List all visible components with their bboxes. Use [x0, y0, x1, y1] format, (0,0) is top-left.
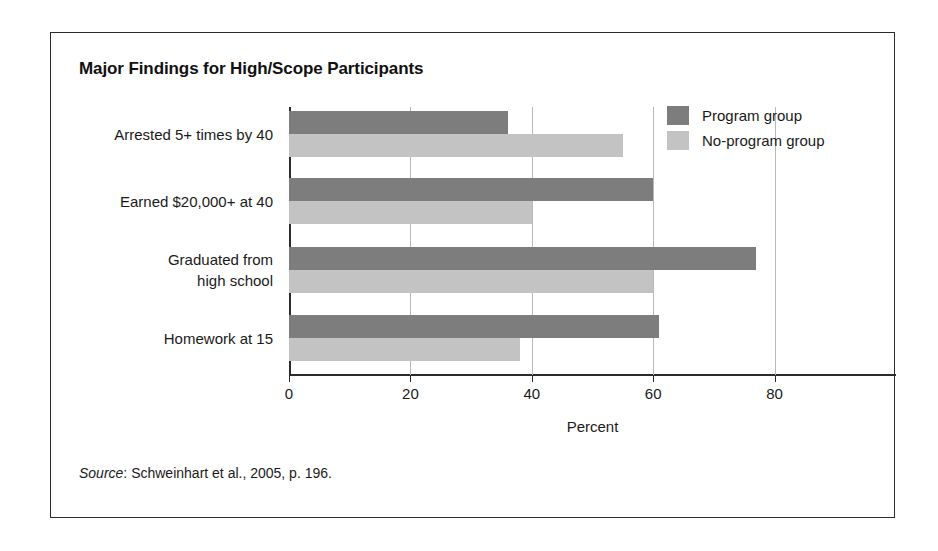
bar-no-program: [289, 338, 520, 361]
tick-label-60: 60: [645, 385, 662, 402]
bar-program: [289, 111, 508, 134]
category-label: Graduated from high school: [168, 249, 273, 291]
x-axis-line: [289, 374, 896, 376]
tick-label-0: 0: [285, 385, 293, 402]
bar-program: [289, 315, 659, 338]
tick-mark-80: [775, 375, 776, 382]
tick-mark-60: [653, 375, 654, 382]
category-label: Arrested 5+ times by 40: [114, 124, 273, 145]
category-label: Homework at 15: [164, 328, 273, 349]
bar-program: [289, 247, 756, 270]
tick-mark-40: [532, 375, 533, 382]
tick-label-80: 80: [766, 385, 783, 402]
bar-program: [289, 178, 653, 201]
x-axis-label: Percent: [289, 418, 896, 435]
legend-item: Program group: [667, 103, 825, 128]
tick-label-40: 40: [523, 385, 540, 402]
page-title: Major Findings for High/Scope Participan…: [79, 59, 423, 79]
source-word: Source: [79, 465, 123, 481]
legend-label: Program group: [702, 107, 802, 124]
bar-no-program: [289, 270, 653, 293]
tick-mark-20: [410, 375, 411, 382]
tick-mark-0: [289, 375, 290, 382]
bar-no-program: [289, 134, 623, 157]
bar-group: Earned $20,000+ at 40: [289, 178, 896, 226]
category-label: Earned $20,000+ at 40: [120, 191, 273, 212]
source-note: Source: Schweinhart et al., 2005, p. 196…: [79, 465, 332, 481]
program-swatch: [667, 106, 689, 125]
figure-frame: Major Findings for High/Scope Participan…: [50, 32, 895, 518]
source-citation: : Schweinhart et al., 2005, p. 196.: [123, 465, 332, 481]
tick-label-20: 20: [402, 385, 419, 402]
bar-no-program: [289, 201, 532, 224]
bar-group: Homework at 15: [289, 315, 896, 363]
chart-legend: Program groupNo-program group: [667, 103, 825, 153]
legend-item: No-program group: [667, 128, 825, 153]
no-program-swatch: [667, 131, 689, 150]
bar-group: Graduated from high school: [289, 247, 896, 295]
legend-label: No-program group: [702, 132, 825, 149]
